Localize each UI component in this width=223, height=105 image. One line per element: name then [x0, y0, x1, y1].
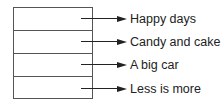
arrowhead-icon — [117, 86, 127, 92]
arrowhead-icon — [117, 62, 127, 68]
arrowhead-icon — [117, 39, 127, 45]
row-divider — [14, 30, 92, 31]
row-label: Candy and cake — [130, 35, 220, 49]
arrow-line — [81, 41, 117, 42]
arrow-line — [81, 18, 117, 19]
row-label: Less is more — [130, 82, 201, 96]
row-label: Happy days — [130, 12, 196, 26]
stacked-box — [13, 7, 93, 99]
row-divider — [14, 76, 92, 77]
row-label: A big car — [130, 58, 179, 72]
arrow-line — [81, 88, 117, 89]
arrow-line — [81, 64, 117, 65]
row-divider — [14, 53, 92, 54]
arrowhead-icon — [117, 16, 127, 22]
